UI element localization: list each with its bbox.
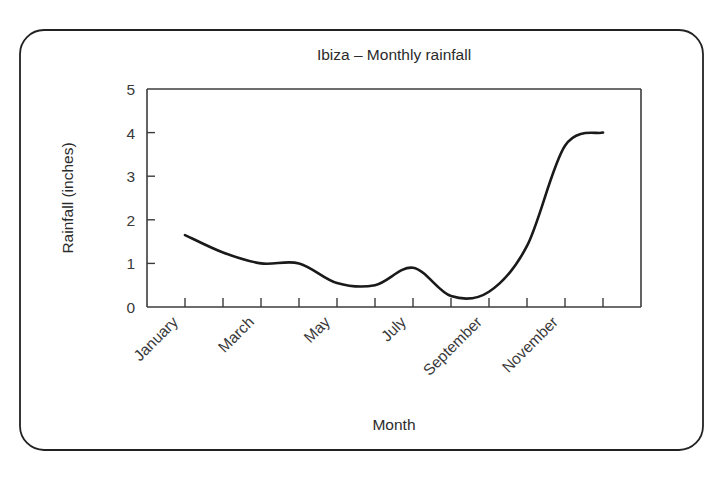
x-axis-title: Month (372, 416, 415, 433)
chart-title: Ibiza – Monthly rainfall (317, 46, 471, 63)
x-tick-label: March (215, 313, 257, 355)
y-tick-labels: 012345 (126, 81, 135, 316)
y-axis-title: Rainfall (inches) (59, 142, 76, 253)
y-tick-label: 4 (126, 125, 135, 142)
x-tick-label: September (419, 313, 485, 379)
y-tick-marks (147, 133, 155, 264)
x-axis: JanuaryMarchMayJulySeptemberNovember (130, 89, 641, 379)
x-tick-label: January (130, 313, 181, 364)
figure-root: Ibiza – Monthly rainfall Rainfall (inche… (0, 0, 723, 478)
x-tick-labels: JanuaryMarchMayJulySeptemberNovember (130, 313, 561, 379)
rainfall-line-chart: Ibiza – Monthly rainfall Rainfall (inche… (0, 0, 723, 478)
x-tick-marks (185, 298, 603, 307)
y-tick-label: 0 (126, 299, 135, 316)
x-tick-label: July (378, 313, 410, 345)
y-tick-label: 5 (126, 81, 135, 98)
x-tick-label: May (300, 313, 333, 346)
x-tick-label: November (499, 313, 562, 376)
y-tick-label: 2 (126, 212, 135, 229)
y-axis: 012345 (126, 81, 155, 316)
y-tick-label: 3 (126, 168, 135, 185)
y-tick-label: 1 (126, 255, 135, 272)
rainfall-data-line (185, 133, 603, 299)
